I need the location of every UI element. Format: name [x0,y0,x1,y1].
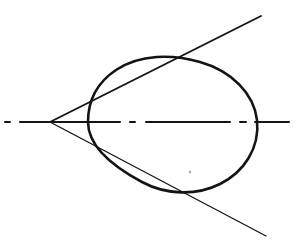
figure-canvas: Hand-drawn geometric construction An egg… [0,0,296,250]
paper-speck-artifact [189,171,192,174]
figure-background [0,0,296,250]
geometry-diagram [0,0,296,250]
